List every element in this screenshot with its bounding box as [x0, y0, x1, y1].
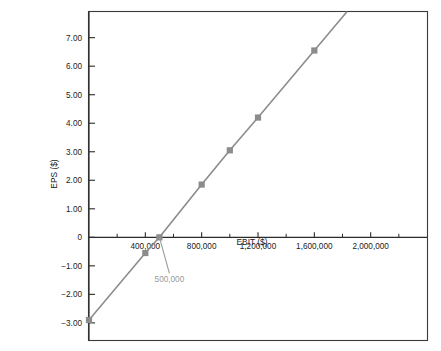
x-tick-label: 800,000	[187, 242, 217, 251]
y-tick-label: 5.00	[66, 91, 82, 100]
x-axis-title: EBIT ($)	[236, 237, 267, 247]
y-tick-label: 1.00	[66, 205, 82, 214]
data-point-marker	[142, 250, 148, 256]
x-tick-label: 1,600,000	[296, 242, 333, 251]
y-tick-label: 4.00	[66, 119, 82, 128]
y-tick-label: −1.00	[61, 262, 82, 271]
annotation-label-500000: 500,000	[155, 275, 185, 284]
y-tick-label: 3.00	[66, 148, 82, 157]
data-point-marker	[255, 114, 261, 120]
y-tick-label: 6.00	[66, 62, 82, 71]
y-tick-label: 7.00	[66, 34, 82, 43]
data-point-marker	[199, 181, 205, 187]
data-point-marker	[311, 47, 317, 53]
y-axis-title: EPS ($)	[49, 159, 59, 189]
data-point-marker	[227, 147, 233, 153]
data-point-marker	[86, 317, 92, 323]
y-tick-label: 2.00	[66, 176, 82, 185]
y-tick-label: 0	[77, 233, 82, 242]
eps-ebit-breakeven-chart: 7.006.005.004.003.002.001.000−1.00−2.00−…	[0, 0, 441, 351]
chart-figure: 7.006.005.004.003.002.001.000−1.00−2.00−…	[0, 0, 441, 351]
y-tick-label: −3.00	[61, 319, 82, 328]
y-tick-label: −2.00	[61, 290, 82, 299]
x-tick-label: 2,000,000	[352, 242, 389, 251]
